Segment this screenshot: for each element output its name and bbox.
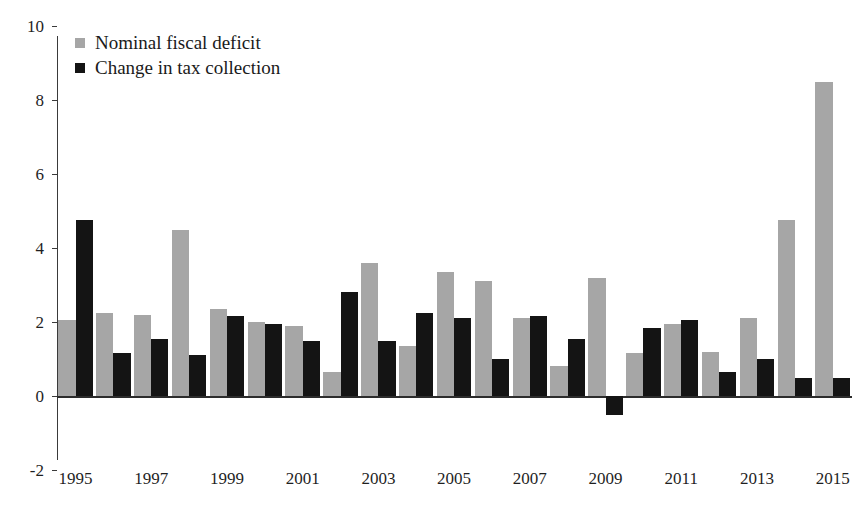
bar-chart-figure: 1086420-2 199519971999200120032005200720… (0, 0, 864, 523)
bar-2009-nominal-fiscal-deficit (588, 278, 605, 396)
bar-1997-change-in-tax-collection (151, 339, 168, 396)
bar-2014-change-in-tax-collection (795, 378, 812, 397)
y-axis-tick-label: 6 (0, 166, 44, 183)
bar-2001-change-in-tax-collection (303, 341, 320, 397)
bar-1995-nominal-fiscal-deficit (58, 320, 75, 396)
bar-1996-nominal-fiscal-deficit (96, 313, 113, 396)
bar-2012-change-in-tax-collection (719, 372, 736, 396)
legend-item-change-in-tax-collection[interactable]: Change in tax collection (75, 55, 280, 80)
bar-2013-change-in-tax-collection (757, 359, 774, 396)
y-axis-tick-mark (52, 470, 57, 471)
y-axis-tick-label: 8 (0, 92, 44, 109)
x-axis-tick-label: 2007 (513, 470, 547, 487)
x-axis-tick-label: 2001 (286, 470, 320, 487)
bar-2006-change-in-tax-collection (492, 359, 509, 396)
x-axis-tick-label: 2005 (437, 470, 471, 487)
bar-2003-change-in-tax-collection (378, 341, 395, 397)
bar-2001-nominal-fiscal-deficit (285, 326, 302, 396)
bar-2000-nominal-fiscal-deficit (248, 322, 265, 396)
y-axis-tick-label: -2 (0, 462, 44, 479)
bar-1999-change-in-tax-collection (227, 316, 244, 396)
x-axis-tick-label: 2003 (361, 470, 395, 487)
bar-1997-nominal-fiscal-deficit (134, 315, 151, 396)
bar-2008-nominal-fiscal-deficit (550, 366, 567, 396)
bar-2007-nominal-fiscal-deficit (513, 318, 530, 396)
y-axis-tick-label: 10 (0, 18, 44, 35)
bar-2002-nominal-fiscal-deficit (323, 372, 340, 396)
chart-legend: Nominal fiscal deficit Change in tax col… (75, 30, 280, 80)
x-axis-tick-label: 2015 (816, 470, 850, 487)
legend-item-label: Change in tax collection (95, 58, 280, 77)
bar-2011-nominal-fiscal-deficit (664, 324, 681, 396)
y-axis-tick-label: 2 (0, 314, 44, 331)
bar-2004-nominal-fiscal-deficit (399, 346, 416, 396)
legend-item-label: Nominal fiscal deficit (95, 33, 261, 52)
y-axis-tick-label: 0 (0, 388, 44, 405)
bar-2013-nominal-fiscal-deficit (740, 318, 757, 396)
bar-2014-nominal-fiscal-deficit (778, 220, 795, 396)
bar-2006-nominal-fiscal-deficit (475, 281, 492, 396)
bar-1999-nominal-fiscal-deficit (210, 309, 227, 396)
bar-1996-change-in-tax-collection (113, 353, 130, 396)
bar-2009-change-in-tax-collection (606, 396, 623, 415)
bar-1995-change-in-tax-collection (76, 220, 93, 396)
bar-2010-nominal-fiscal-deficit (626, 353, 643, 396)
bar-1998-nominal-fiscal-deficit (172, 230, 189, 397)
x-axis-tick-label: 1995 (59, 470, 93, 487)
bar-2012-nominal-fiscal-deficit (702, 352, 719, 396)
bar-2015-nominal-fiscal-deficit (815, 82, 832, 397)
bar-2005-change-in-tax-collection (454, 318, 471, 396)
x-axis-tick-label: 1999 (210, 470, 244, 487)
bar-2004-change-in-tax-collection (416, 313, 433, 396)
bar-2015-change-in-tax-collection (833, 378, 850, 397)
bar-2003-nominal-fiscal-deficit (361, 263, 378, 396)
bar-2011-change-in-tax-collection (681, 320, 698, 396)
y-axis-tick-label: 4 (0, 240, 44, 257)
legend-swatch-icon (75, 63, 85, 73)
legend-swatch-icon (75, 38, 85, 48)
bar-2000-change-in-tax-collection (265, 324, 282, 396)
y-axis-tick-mark (52, 26, 57, 27)
x-axis-tick-label: 2011 (665, 470, 698, 487)
bar-1998-change-in-tax-collection (189, 355, 206, 396)
x-axis-tick-label: 1997 (134, 470, 168, 487)
bar-2008-change-in-tax-collection (568, 339, 585, 396)
legend-item-nominal-fiscal-deficit[interactable]: Nominal fiscal deficit (75, 30, 280, 55)
x-axis-tick-label: 2013 (740, 470, 774, 487)
bar-2007-change-in-tax-collection (530, 316, 547, 396)
x-axis-tick-label: 2009 (589, 470, 623, 487)
bar-2010-change-in-tax-collection (643, 328, 660, 396)
bar-2005-nominal-fiscal-deficit (437, 272, 454, 396)
bar-2002-change-in-tax-collection (341, 292, 358, 396)
